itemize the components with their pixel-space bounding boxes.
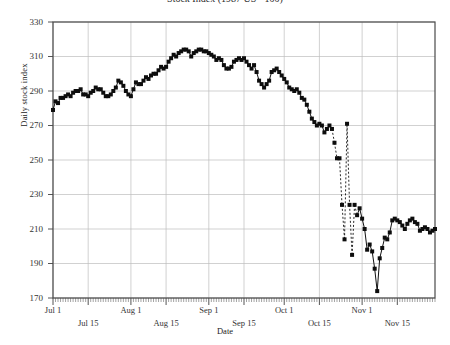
y-tick-label: 330	[13, 18, 43, 27]
x-tick-label: Aug 1	[109, 306, 153, 315]
x-tick-label: Oct 1	[262, 306, 306, 315]
y-tick-label: 170	[13, 294, 43, 303]
x-tick-label: Nov 15	[375, 319, 419, 328]
x-tick-label: Aug 15	[144, 319, 188, 328]
x-tick-label: Nov 1	[340, 306, 384, 315]
y-tick-label: 270	[13, 121, 43, 130]
y-tick-label: 250	[13, 156, 43, 165]
y-tick-label: 190	[13, 259, 43, 268]
x-tick-label: Jul 15	[66, 319, 110, 328]
x-tick-label: Sep 15	[222, 319, 266, 328]
x-tick-label: Sep 1	[187, 306, 231, 315]
grid-lines	[53, 22, 435, 298]
stock-index-chart-figure: Stock Index (1987 US - 100) Daily stock …	[0, 0, 450, 345]
y-tick-label: 310	[13, 52, 43, 61]
y-tick-label: 290	[13, 87, 43, 96]
x-tick-label: Jul 1	[31, 306, 75, 315]
y-tick-label: 230	[13, 190, 43, 199]
axis-ticks	[48, 22, 435, 305]
y-tick-label: 210	[13, 225, 43, 234]
plot-canvas	[0, 0, 450, 345]
x-tick-label: Oct 15	[297, 319, 341, 328]
